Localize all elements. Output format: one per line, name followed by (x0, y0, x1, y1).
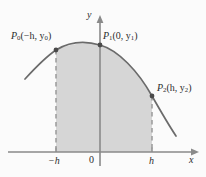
p1-arguments: (0, y (113, 30, 131, 41)
p0-closing-paren: ) (48, 30, 51, 41)
parabola-figure: P0(−h, y0) P1(0, y1) P2(h, y2) y x −h 0 … (0, 0, 206, 177)
point-marker-p2 (150, 94, 155, 99)
point-label-p0: P0(−h, y0) (11, 31, 51, 42)
p2-closing-paren: ) (188, 82, 191, 93)
x-tick-label-pos-h: h (149, 156, 154, 166)
point-label-p1: P1(0, y1) (103, 31, 138, 42)
point-label-p2: P2(h, y2) (157, 83, 192, 94)
p1-closing-paren: ) (134, 30, 137, 41)
y-axis-arrowhead (97, 15, 104, 23)
x-axis-label: x (189, 155, 193, 165)
p0-arguments: (−h, y (21, 30, 45, 41)
point-marker-p1 (98, 43, 103, 48)
x-tick-label-neg-h: −h (48, 156, 60, 166)
p2-arguments: (h, y (167, 82, 185, 93)
shaded-area-under-curve (56, 43, 152, 152)
y-axis-label: y (87, 10, 91, 20)
x-tick-label-origin: 0 (89, 155, 94, 165)
point-marker-p0 (54, 48, 59, 53)
